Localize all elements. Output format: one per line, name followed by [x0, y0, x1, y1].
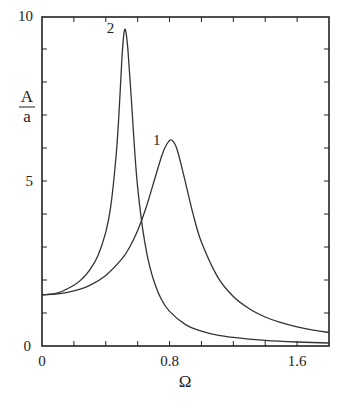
y-tick-label: 0 [24, 338, 32, 354]
curve-label-2: 2 [107, 20, 115, 36]
y-axis-title-denominator: a [23, 107, 31, 126]
y-axis-title: A a [19, 87, 35, 126]
resonance-chart: 00.81.6 0510 12 Ω A a [0, 0, 347, 404]
y-axis-tick-labels: 0510 [18, 8, 33, 354]
curve-1 [42, 140, 329, 333]
x-tick-label: 0 [38, 353, 46, 369]
x-axis-title: Ω [179, 372, 192, 391]
curve-label-1: 1 [153, 132, 161, 148]
y-axis-title-numerator: A [21, 87, 34, 106]
y-tick-label: 5 [26, 173, 34, 189]
data-curves [42, 29, 329, 343]
x-tick-label: 0.8 [160, 353, 179, 369]
x-axis-tick-labels: 00.81.6 [38, 353, 307, 369]
curve-2 [42, 29, 329, 343]
x-tick-label: 1.6 [288, 353, 307, 369]
y-tick-label: 10 [18, 8, 33, 24]
